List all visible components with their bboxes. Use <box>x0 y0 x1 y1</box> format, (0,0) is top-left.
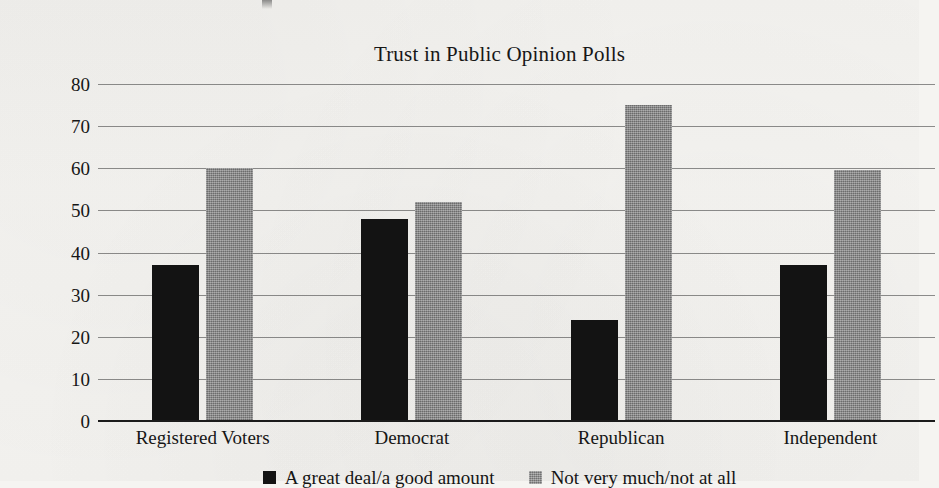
gridline <box>98 126 935 127</box>
bar <box>361 219 408 421</box>
scan-artifact <box>262 0 272 9</box>
x-tick-label: Democrat <box>307 428 516 447</box>
legend-swatch-icon <box>263 471 276 484</box>
legend-item: Not very much/not at all <box>529 468 737 487</box>
legend-swatch-icon <box>529 471 542 484</box>
plot-area <box>98 84 935 421</box>
y-tick-label: 50 <box>46 201 90 220</box>
bar <box>625 105 672 421</box>
bar <box>152 265 199 421</box>
bar-chart: Trust in Public Opinion Polls 8070605040… <box>40 16 879 465</box>
gridline <box>98 84 935 85</box>
x-tick-label: Registered Voters <box>98 428 307 447</box>
y-tick-label: 60 <box>46 159 90 178</box>
y-tick-label: 80 <box>46 75 90 94</box>
legend-label: Not very much/not at all <box>551 468 737 487</box>
y-tick-label: 40 <box>46 244 90 263</box>
y-tick-label: 30 <box>46 286 90 305</box>
legend-item: A great deal/a good amount <box>263 468 495 487</box>
y-axis: 80706050403020100 <box>40 84 90 421</box>
legend-label: A great deal/a good amount <box>285 468 495 487</box>
y-tick-label: 0 <box>46 412 90 431</box>
chart-title: Trust in Public Opinion Polls <box>40 42 939 67</box>
x-tick-label: Independent <box>726 428 935 447</box>
bar <box>780 265 827 421</box>
chart-legend: A great deal/a good amountNot very much/… <box>40 468 939 487</box>
x-axis-line <box>98 420 935 422</box>
y-tick-label: 20 <box>46 328 90 347</box>
x-tick-label: Republican <box>517 428 726 447</box>
y-tick-label: 70 <box>46 117 90 136</box>
bar <box>415 202 462 421</box>
bar <box>834 170 881 421</box>
x-axis: Registered VotersDemocratRepublicanIndep… <box>98 428 935 456</box>
bar <box>571 320 618 421</box>
bar <box>206 168 253 421</box>
y-tick-label: 10 <box>46 370 90 389</box>
